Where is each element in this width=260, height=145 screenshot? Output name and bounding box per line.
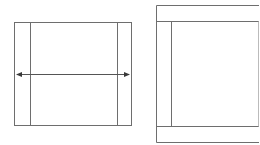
right-panel bbox=[157, 6, 260, 143]
left-panel bbox=[15, 23, 132, 126]
diagram-canvas bbox=[0, 0, 259, 145]
